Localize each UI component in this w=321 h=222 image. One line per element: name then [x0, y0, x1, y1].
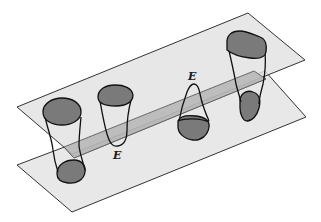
two-planes-cobordism-diagram: E E — [0, 0, 321, 222]
tube2-top-disk — [98, 85, 133, 106]
label-e-upper: E — [187, 70, 197, 83]
tube1-bottom-disk — [57, 160, 85, 183]
label-e-lower: E — [112, 149, 122, 162]
tube1-top-disk — [43, 98, 81, 125]
